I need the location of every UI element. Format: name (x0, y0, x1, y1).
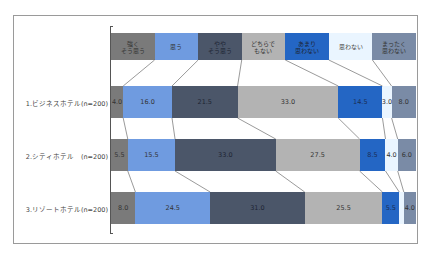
bar-segment: 4.0 (404, 192, 416, 224)
bar-segment: 8.0 (392, 86, 416, 118)
bar-segment: 8.5 (360, 139, 386, 171)
bar-segment: 33.0 (238, 86, 339, 118)
bar-segment: 6.0 (398, 139, 416, 171)
stacked-bar: 5.515.533.027.58.54.06.0 (111, 139, 416, 171)
bar-segment: 8.0 (111, 192, 135, 224)
legend-item: あまり 思わない (285, 33, 329, 60)
bar-segment: 4.0 (385, 139, 397, 171)
bar-segment: 3.0 (382, 86, 391, 118)
legend-item: 強く そう思う (111, 33, 155, 60)
legend-item: 思わない (329, 33, 373, 60)
legend-item: やや そう思う (198, 33, 242, 60)
legend-item: 思う (155, 33, 199, 60)
bar-segment: 31.0 (210, 192, 305, 224)
bar-segment: 27.5 (276, 139, 360, 171)
bar-segment: 24.5 (135, 192, 210, 224)
category-label: 1.ビジネスホテル(n=200) (14, 98, 108, 108)
bar-segment: 4.0 (111, 86, 123, 118)
bar-segment: 33.0 (175, 139, 276, 171)
bar-segment: 21.5 (172, 86, 238, 118)
caption (14, 0, 314, 6)
bar-segment: 5.5 (382, 192, 399, 224)
bar-segment: 14.5 (338, 86, 382, 118)
stacked-bar: 4.016.021.533.014.53.08.0 (111, 86, 416, 118)
stacked-bar: 8.024.531.025.55.54.0 (111, 192, 416, 224)
bar-segment: 16.0 (123, 86, 172, 118)
legend-item: まったく 思わない (372, 33, 416, 60)
bar-segment: 5.5 (111, 139, 128, 171)
axis-tick (110, 233, 113, 234)
axis-tick (110, 26, 113, 27)
bar-segment: 15.5 (128, 139, 175, 171)
category-label: 3.リゾートホテル(n=200) (14, 204, 108, 214)
category-label: 2.シティホテル (n=200) (14, 151, 108, 161)
bar-segment: 25.5 (305, 192, 383, 224)
legend-item: どちらで もない (242, 33, 286, 60)
legend: 強く そう思う思うやや そう思うどちらで もないあまり 思わない思わないまったく… (111, 33, 416, 60)
